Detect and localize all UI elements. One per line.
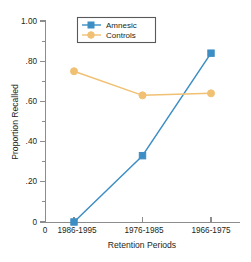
x-tick-label-1: 1976-1985 <box>124 226 164 235</box>
y-axis-title: Proportion Recalled <box>10 84 20 160</box>
y-axis-minor-ticks <box>42 41 46 202</box>
data-series-layer <box>71 50 215 225</box>
x-axis-ticks <box>74 217 211 223</box>
y-tick-label-0.60: .60 <box>26 97 38 106</box>
data-point-controls-1[interactable] <box>139 92 146 99</box>
series-controls <box>71 68 215 99</box>
data-point-amnesic-2[interactable] <box>208 50 214 56</box>
legend-marker-amnesic <box>88 22 94 28</box>
legend-entry-amnesic[interactable]: Amnesic <box>82 21 137 30</box>
legend-marker-controls <box>88 32 95 39</box>
x-tick-label-2: 1966-1975 <box>191 226 231 235</box>
line-chart: 1.00 .80 .60 .40 .20 0 Proportion Recall… <box>0 0 251 262</box>
data-point-amnesic-0[interactable] <box>71 219 77 225</box>
y-tick-label-0: 0 <box>32 218 37 227</box>
data-point-amnesic-1[interactable] <box>139 152 145 158</box>
chart-container: 1.00 .80 .60 .40 .20 0 Proportion Recall… <box>0 0 251 262</box>
legend-entry-controls[interactable]: Controls <box>82 31 136 40</box>
data-point-controls-2[interactable] <box>208 90 215 97</box>
x-axis-title: Retention Periods <box>108 240 176 250</box>
legend-label-controls: Controls <box>106 31 136 40</box>
legend-label-amnesic: Amnesic <box>106 21 137 30</box>
series-amnesic <box>71 50 214 225</box>
y-tick-label-1.00: 1.00 <box>21 17 37 26</box>
x-tick-label-0: 1986-1995 <box>57 226 97 235</box>
y-tick-label-0.40: .40 <box>26 137 38 146</box>
data-point-controls-0[interactable] <box>71 68 78 75</box>
x-axis-origin-label: 0 <box>43 226 48 235</box>
y-tick-label-0.80: .80 <box>26 57 38 66</box>
chart-legend: Amnesic Controls <box>78 18 156 43</box>
y-tick-label-0.20: .20 <box>26 177 38 186</box>
